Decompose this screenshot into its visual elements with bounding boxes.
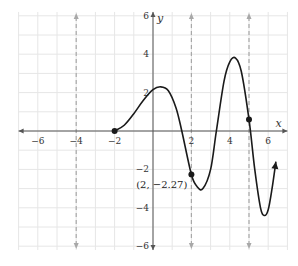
y-tick-label: −6	[136, 241, 150, 251]
curve-end-arrow-icon	[271, 162, 278, 169]
x-tick-label: −4	[70, 136, 84, 146]
point-annotation: (2, −2.27)	[136, 179, 187, 190]
y-tick-label: 6	[143, 11, 149, 21]
x-tick-label: −6	[31, 136, 45, 146]
marked-points	[112, 116, 252, 177]
y-axis-label: y	[156, 12, 164, 25]
y-tick-label: −2	[136, 164, 149, 174]
x-tick-label: 2	[189, 136, 195, 146]
marked-point	[246, 116, 252, 122]
x-tick-label: 6	[265, 136, 271, 146]
x-tick-label: 4	[227, 136, 233, 146]
y-tick-label: −4	[136, 203, 150, 213]
y-tick-label: 4	[143, 49, 149, 59]
x-tick-label: −2	[108, 136, 121, 146]
marked-point	[188, 172, 194, 178]
coordinate-axes	[19, 12, 288, 250]
function-curve	[115, 57, 276, 215]
point-annotations: (2, −2.27)	[136, 179, 187, 190]
marked-point	[112, 128, 118, 134]
x-axis-label: x	[275, 117, 282, 130]
function-graph: −6−4−2246642−2−4−6 (2, −2.27) x y	[0, 0, 298, 266]
